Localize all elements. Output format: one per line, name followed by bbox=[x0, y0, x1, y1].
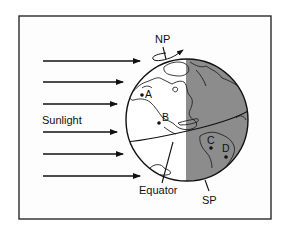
earth-sunlight-diagram: Sunlight bbox=[0, 0, 286, 231]
north-pole-label: NP bbox=[155, 33, 170, 45]
sunlight-label: Sunlight bbox=[42, 114, 82, 126]
south-pole-label: SP bbox=[202, 194, 217, 206]
svg-text:B: B bbox=[162, 111, 169, 123]
svg-text:A: A bbox=[145, 88, 152, 100]
svg-text:D: D bbox=[222, 142, 230, 154]
equator-label: Equator bbox=[139, 184, 178, 196]
svg-text:C: C bbox=[207, 134, 215, 146]
